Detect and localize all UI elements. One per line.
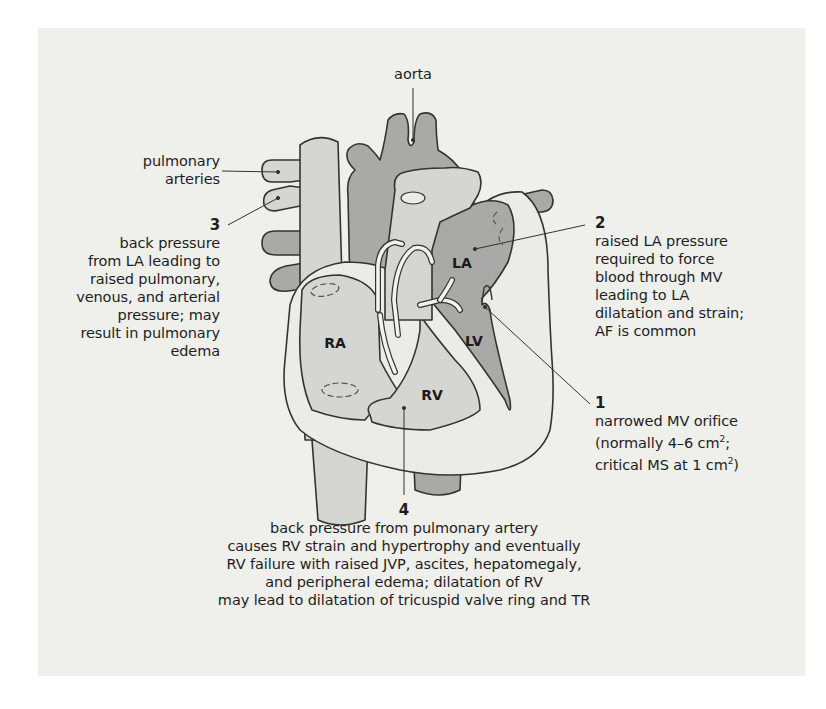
annotation-1: 1 narrowed MV orifice (normally 4–6 cm2;… [595,394,795,474]
annotation-4: 4 back pressure from pulmonary artery ca… [164,501,644,609]
annotation-number: 4 [164,501,644,519]
chamber-label-la: LA [452,255,472,271]
annotation-2: 2 raised LA pressure required to force b… [595,214,795,340]
pulmonary-arteries-label: pulmonary arteries [110,152,220,188]
chamber-label-rv: RV [421,387,443,403]
annotation-number: 3 [60,216,220,234]
chamber-label-lv: LV [465,333,483,349]
annotation-3-leader [228,198,278,225]
aorta-label: aorta [383,65,443,83]
annotation-number: 1 [595,394,795,412]
annotation-3: 3 back pressure from LA leading to raise… [60,216,220,360]
annotation-number: 2 [595,214,795,232]
aortic-opening [401,192,425,204]
chamber-label-ra: RA [324,335,346,351]
pulmonary-artery-upper [262,160,305,182]
pulmonary-artery-lower [264,186,305,211]
